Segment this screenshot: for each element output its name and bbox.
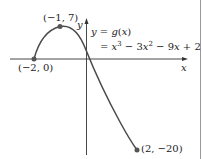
label-left-root: (−2, 0) — [18, 62, 53, 73]
y-axis: y — [76, 18, 89, 155]
equation-line-1: y = g(x) — [90, 26, 131, 37]
point-left-root — [32, 57, 37, 62]
function-graph: x y (−2, 0) (−1, 7) (2, −20) y = g(x) = … — [0, 0, 202, 159]
label-endpoint: (2, −20) — [141, 143, 183, 154]
x-axis-label: x — [181, 62, 187, 73]
x-axis-arrow-icon — [182, 57, 188, 61]
point-endpoint — [135, 148, 140, 153]
equation-line-2: = x3 − 3x2 − 9x + 2 — [100, 40, 201, 52]
point-local-max — [58, 24, 63, 29]
label-local-max: (−1, 7) — [43, 12, 78, 23]
y-axis-arrow-icon — [85, 18, 89, 24]
